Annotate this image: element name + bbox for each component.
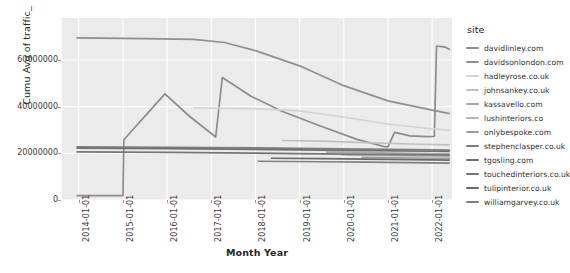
legend-item-label: onlybespoke.com [484,128,551,137]
y-tick-mark [58,153,61,154]
legend-item[interactable]: onlybespoke.com [466,125,564,139]
legend-swatch-icon [466,201,479,204]
x-tick-mark [167,200,168,203]
x-tick-label: 2020-01-01 [347,195,356,243]
legend-item-label: davidsonlondon.com [484,58,564,67]
legend-items: davidlinley.comdavidsonlondon.comhadleyr… [466,41,564,209]
x-axis-title: Month Year [62,247,452,258]
y-tick-label: 20000000 [0,148,58,157]
x-tick-mark [79,200,80,203]
x-tick-label: 2019-01-01 [303,195,312,243]
legend-swatch-icon [466,75,479,78]
y-tick-label: 40000000 [0,102,58,111]
legend-item-label: hadleyrose.co.uk [484,72,549,81]
y-tick-mark [58,60,61,61]
legend-item[interactable]: stephenclasper.co.uk [466,139,564,153]
plot-area [62,18,452,200]
x-tick-label: 2017-01-01 [214,195,223,243]
legend-item[interactable]: davidsonlondon.com [466,55,564,69]
legend-item[interactable]: tgosling.com [466,153,564,167]
legend-swatch-icon [466,103,479,106]
legend-item[interactable]: johnsankey.co.uk [466,83,564,97]
legend-item[interactable]: lushinteriors.co [466,111,564,125]
series-line [258,161,450,163]
legend-item-label: davidlinley.com [484,44,544,53]
x-tick-mark [388,200,389,203]
series-line [77,46,450,196]
legend-swatch-icon [466,47,479,50]
legend-swatch-icon [466,187,479,190]
x-tick-label: 2015-01-01 [126,195,135,243]
legend-swatch-icon [466,117,479,120]
y-tick-mark [58,107,61,108]
series-line [361,157,449,158]
x-tick-mark [300,200,301,203]
legend-swatch-icon [466,159,479,162]
legend-item-label: kassavello.com [484,100,543,109]
legend-swatch-icon [466,131,479,134]
legend-swatch-icon [466,61,479,64]
x-tick-label: 2014-01-01 [82,195,91,243]
legend-title: site [467,24,564,35]
x-tick-mark [432,200,433,203]
legend: site davidlinley.comdavidsonlondon.comha… [466,24,564,209]
legend-swatch-icon [466,145,479,148]
chart-canvas [62,18,452,200]
y-tick-label: 60000000 [0,55,58,64]
legend-swatch-icon [466,89,479,92]
x-tick-mark [255,200,256,203]
x-tick-label: 2018-01-01 [258,195,267,243]
legend-item[interactable]: williamgarvey.co.uk [466,195,564,209]
legend-item-label: tgosling.com [484,156,534,165]
legend-item-label: stephenclasper.co.uk [484,142,565,151]
legend-item[interactable]: davidlinley.com [466,41,564,55]
legend-item-label: johnsankey.co.uk [484,86,550,95]
legend-swatch-icon [466,173,479,176]
x-tick-label: 2021-01-01 [391,195,400,243]
x-tick-label: 2022-01-01 [435,195,444,243]
legend-item[interactable]: kassavello.com [466,97,564,111]
x-tick-mark [344,200,345,203]
legend-item[interactable]: touchedinteriors.co.uk [466,167,564,181]
x-tick-mark [123,200,124,203]
x-tick-mark [211,200,212,203]
legend-item[interactable]: hadleyrose.co.uk [466,69,564,83]
legend-item[interactable]: tulipinterior.co.uk [466,181,564,195]
x-tick-label: 2016-01-01 [170,195,179,243]
legend-item-label: lushinteriors.co [484,114,543,123]
legend-item-label: touchedinteriors.co.uk [484,170,570,179]
legend-item-label: williamgarvey.co.uk [484,198,560,207]
legend-item-label: tulipinterior.co.uk [484,184,551,193]
